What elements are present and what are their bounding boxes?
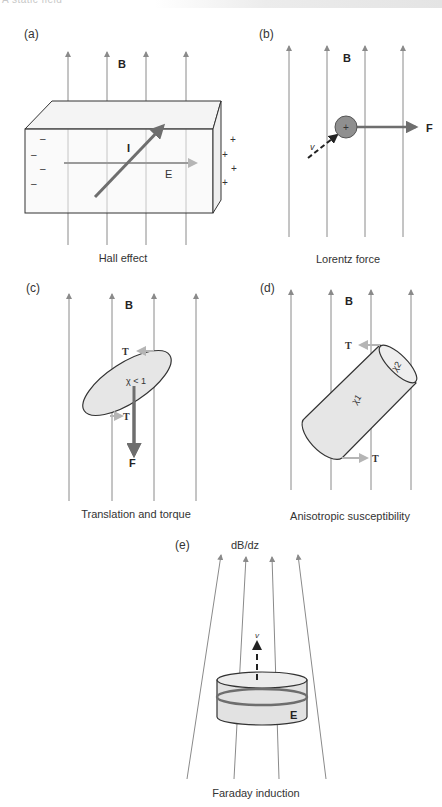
torque-label-top: T <box>345 340 352 351</box>
panel-c-tag: (c) <box>26 281 40 295</box>
efield-label: E <box>290 709 297 721</box>
caption-c: Translation and torque <box>81 508 191 520</box>
caption-a: Hall effect <box>99 252 148 264</box>
svg-text:–: – <box>31 178 37 189</box>
torque-label-bottom: T <box>372 453 379 464</box>
susceptibility-label: χ < 1 <box>126 376 146 386</box>
figure: (a) B – – – – + + + + E I Hall effect <box>0 0 442 807</box>
caption-b: Lorentz force <box>316 253 380 265</box>
torque-label-bottom: T <box>123 411 130 422</box>
svg-text:+: + <box>222 177 228 188</box>
svg-text:+: + <box>222 149 228 160</box>
panel-a-hall-effect: (a) B – – – – + + + + E I Hall effect <box>24 27 237 264</box>
current-label: I <box>127 142 130 154</box>
field-label-b: B <box>343 52 351 64</box>
efield-label: E <box>165 168 172 180</box>
torque-label-top: T <box>122 346 129 357</box>
caption-e: Faraday induction <box>212 787 299 799</box>
svg-text:+: + <box>231 163 237 174</box>
svg-text:–: – <box>40 133 46 144</box>
panel-e-faraday-induction: (e) dB/dz v E Faraday induction <box>175 538 326 799</box>
velocity-label: v <box>310 142 315 152</box>
panel-b-tag: (b) <box>259 27 274 41</box>
panel-a-tag: (a) <box>24 27 39 41</box>
panel-e-tag: (e) <box>175 538 190 552</box>
field-label-b: B <box>125 299 133 311</box>
force-label: F <box>426 122 433 134</box>
panel-b-lorentz-force: (b) B v + F Lorentz force <box>259 27 433 265</box>
svg-text:+: + <box>230 134 236 145</box>
charge-sign: + <box>343 122 349 133</box>
field-label-b: B <box>345 295 353 307</box>
field-gradient-label: dB/dz <box>231 539 259 551</box>
panel-c-translation-torque: (c) B χ < 1 T T F Translation and torque <box>26 281 196 520</box>
svg-text:–: – <box>31 149 37 160</box>
box-top-face <box>25 101 221 129</box>
velocity-label: v <box>255 631 260 640</box>
force-label: F <box>129 457 136 469</box>
positive-charges: + + + + <box>222 134 237 188</box>
panel-d-anisotropic: (d) B χ1 χ2 T T Anisotropic susceptibili… <box>260 281 422 522</box>
panel-d-tag: (d) <box>260 281 275 295</box>
svg-text:–: – <box>40 163 46 174</box>
field-label-b: B <box>118 58 126 70</box>
field-lines <box>289 46 403 237</box>
caption-d: Anisotropic susceptibility <box>290 510 410 522</box>
